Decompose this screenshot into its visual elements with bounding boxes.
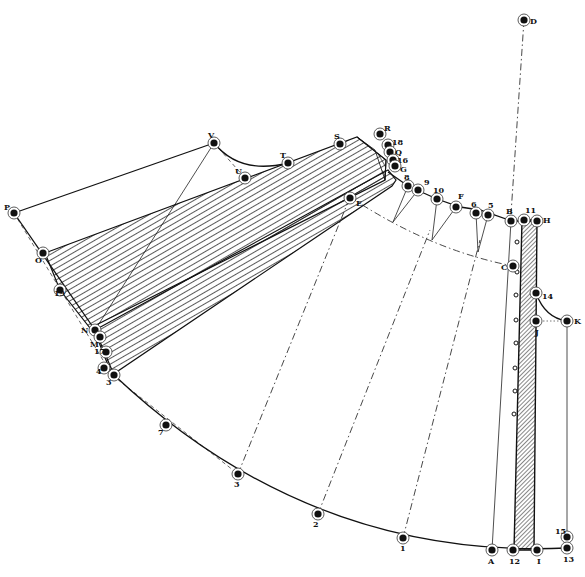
point-dot-icon (433, 195, 440, 202)
point-label: 4 (96, 366, 102, 376)
point-label: S (334, 131, 340, 141)
point-dot-icon (10, 209, 17, 216)
point-dot-icon (532, 317, 539, 324)
point-label: O (35, 255, 42, 265)
point-12: 12 (507, 544, 520, 566)
point-label: 1 (400, 543, 406, 553)
point-10: 10 (431, 185, 445, 205)
point-dot-icon (533, 546, 540, 553)
point-v: V (207, 130, 220, 149)
point-label: U (235, 166, 242, 176)
point-dot-icon (488, 546, 495, 553)
point-dot-icon (399, 534, 406, 541)
radial-line-1 (403, 240, 480, 538)
point-dot-icon (509, 546, 516, 553)
point-label: H (543, 215, 551, 225)
point-f: F (450, 191, 464, 213)
point-label: F (458, 191, 464, 201)
point-dot-icon (314, 510, 321, 517)
point-dot-icon (234, 470, 241, 477)
point-label: 19 (54, 288, 66, 298)
point-label: 2 (313, 519, 319, 529)
point-label: 18 (392, 137, 404, 147)
pattern-diagram: DPOVUTSR18Q16GE8910F65B11HC14JK19NM17437… (0, 0, 585, 577)
point-13: 13 (561, 542, 575, 564)
point-label: I (537, 556, 541, 566)
point-label: N (81, 325, 88, 335)
point-label: V (207, 130, 215, 140)
point-dot-icon (509, 262, 516, 269)
point-dot-icon (472, 209, 479, 216)
point-label: E (356, 198, 362, 208)
point-label: 9 (424, 177, 430, 187)
point-p3: 3 (232, 468, 244, 489)
point-14: 14 (530, 287, 554, 301)
point-label: J (534, 327, 539, 337)
point-c: C (501, 260, 519, 272)
point-o: O (35, 247, 49, 265)
point-label: D (530, 16, 537, 26)
point-dot-icon (484, 211, 491, 218)
point-label: A (487, 556, 495, 566)
point-d: D (518, 14, 537, 26)
point-dot-icon (532, 289, 539, 296)
point-17: 17 (94, 346, 112, 358)
point-label: 8 (404, 172, 410, 182)
point-k: K (561, 315, 582, 327)
point-dot-icon (533, 217, 540, 224)
point-p1: 1 (397, 532, 409, 553)
point-dot-icon (404, 182, 411, 189)
point-h: H (531, 215, 551, 227)
point-label: 13 (563, 554, 575, 564)
point-dot-icon (520, 16, 527, 23)
point-dot-icon (391, 162, 398, 169)
point-19: 19 (54, 284, 66, 298)
point-dot-icon (376, 130, 383, 137)
point-dot-icon (507, 217, 514, 224)
point-label: B (506, 206, 513, 216)
point-b: B (505, 206, 517, 227)
point-dot-icon (414, 186, 421, 193)
point-dot-icon (346, 194, 353, 201)
point-a: A (486, 544, 498, 566)
point-label: 11 (525, 205, 536, 215)
point-i: I (531, 544, 543, 566)
point-dot-icon (520, 216, 527, 223)
point-label: 10 (433, 185, 445, 195)
point-label: 6 (471, 199, 477, 209)
point-dot-icon (452, 203, 459, 210)
point-5: 5 (482, 200, 494, 221)
point-label: 3 (234, 479, 240, 489)
point-15: 15 (555, 526, 573, 543)
point-r: R (374, 123, 391, 140)
point-label: 14 (542, 291, 554, 301)
point-6: 6 (470, 199, 482, 219)
point-dot-icon (336, 140, 343, 147)
point-label: 5 (488, 200, 494, 210)
point-label: R (384, 123, 391, 133)
point-dot-icon (210, 139, 217, 146)
point-dot-icon (284, 159, 291, 166)
point-label: K (574, 316, 582, 326)
point-label: 15 (555, 526, 566, 536)
radial-line-2 (318, 230, 430, 514)
hem-curve (114, 375, 567, 549)
point-label: T (280, 150, 286, 160)
point-9: 9 (412, 177, 430, 196)
point-dot-icon (563, 544, 570, 551)
point-dot-icon (241, 174, 248, 181)
point-p7: 7 (158, 419, 172, 437)
point-label: C (501, 262, 507, 272)
curve-v-t (214, 143, 288, 166)
point-label: 17 (94, 346, 105, 356)
point-label: 12 (509, 556, 520, 566)
point-p2: 2 (312, 508, 324, 529)
point-label: 7 (158, 427, 164, 437)
point-p: P (4, 202, 20, 219)
vertical-axis-d (511, 20, 524, 214)
point-label: 3 (106, 377, 112, 387)
point-dot-icon (563, 317, 570, 324)
point-label: P (4, 202, 10, 212)
point-s: S (334, 131, 346, 150)
